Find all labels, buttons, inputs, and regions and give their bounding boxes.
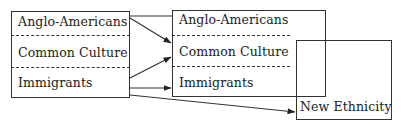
immigrants-to-new-ethnicity-arrow	[130, 95, 295, 112]
anglo-to-culture-arrow	[130, 18, 171, 43]
connector-arrows	[0, 0, 403, 128]
immigrants-to-culture-arrow	[130, 57, 171, 78]
